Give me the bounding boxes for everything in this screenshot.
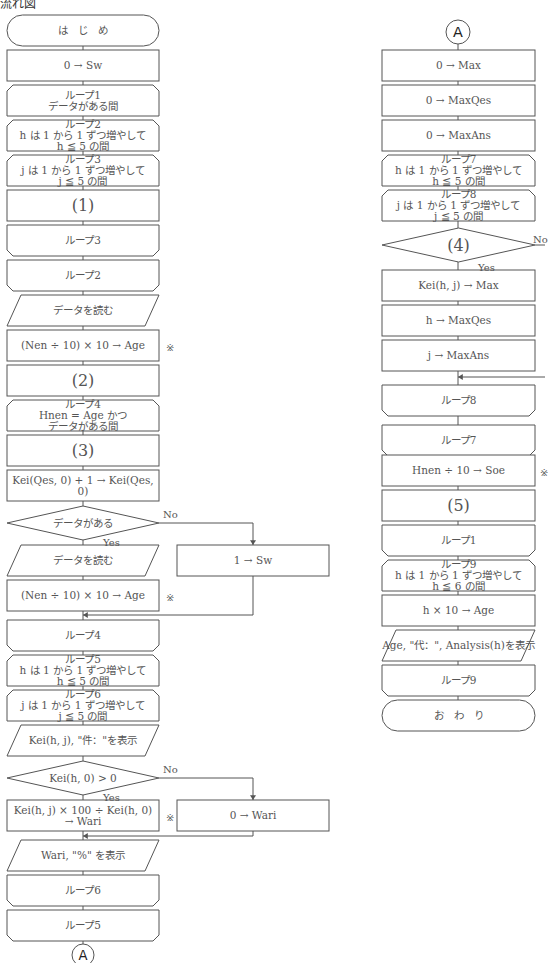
node-text: Kei(h, j) → Max [418, 280, 498, 291]
init-maxans: 0 → MaxAns [382, 120, 535, 151]
node-text: h × 10 → Age [423, 605, 495, 616]
loop5-end: ループ5 [7, 910, 159, 941]
loop7-start: ループ7h は 1 から 1 ずつ増やしてh ≦ 5 の間 [382, 155, 535, 186]
node-text: ループ6 [65, 885, 101, 896]
branch-label: No [163, 509, 178, 520]
loop2-end: ループ2 [7, 260, 159, 291]
cond-kei: Kei(h, 0) > 0 [7, 761, 159, 795]
calc-wari: Kei(h, j) × 100 ÷ Kei(h, 0)→ Wari [7, 800, 159, 831]
node-text: (Nen ÷ 10) × 10 → Age [21, 340, 145, 351]
node-text: 0 → MaxAns [426, 130, 491, 141]
node-text: お わ り [434, 710, 484, 721]
branch-label: Yes [478, 262, 495, 273]
set-sw-1: 1 → Sw [177, 545, 329, 576]
blank-2: (2) [7, 365, 159, 396]
node-text: h ≦ 6 の間 [432, 581, 484, 592]
branch-label: No [163, 764, 178, 775]
node-text: 0 → Sw [64, 60, 102, 71]
end: お わ り [382, 700, 535, 731]
show-kei: Kei(h, j), "件："を表示 [7, 725, 159, 756]
blank-1: (1) [7, 190, 159, 221]
branch-label: Yes [103, 792, 120, 803]
node-text: ループ9 [441, 675, 477, 686]
loop6-start: ループ6j は 1 から 1 ずつ増やしてj ≦ 5 の間 [7, 690, 159, 721]
node-text: ループ4 [65, 630, 101, 641]
calc-soe: Hnen ÷ 10 → Soe [382, 455, 535, 486]
node-text: ループ7 [441, 435, 477, 446]
node-text: (4) [447, 240, 470, 251]
loop5-start: ループ5h は 1 から 1 ずつ増やしてh ≦ 5 の間 [7, 655, 159, 686]
blank-4: (4) [382, 228, 535, 262]
node-text: h ≦ 5 の間 [57, 141, 109, 152]
loop4-start: ループ4Hnen = Age かつデータがある間 [7, 400, 159, 431]
node-text: j ≦ 5 の間 [434, 211, 483, 222]
blank-3: (3) [7, 435, 159, 466]
node-text: (2) [72, 375, 95, 386]
loop3-start: ループ3j は 1 から 1 ずつ増やしてj ≦ 5 の間 [7, 155, 159, 186]
node-text: データを読む [53, 305, 113, 316]
loop1-end: ループ1 [382, 525, 535, 556]
node-text: j → MaxAns [428, 350, 489, 361]
node-text: j ≦ 5 の間 [59, 176, 108, 187]
loop9-end: ループ9 [382, 665, 535, 696]
node-text: Kei(Qes, 0) + 1 → Kei(Qes, 0) [7, 475, 159, 497]
node-text: (Nen ÷ 10) × 10 → Age [21, 590, 145, 601]
node-text: Kei(h, j), "件："を表示 [29, 735, 137, 746]
init-max: 0 → Max [382, 50, 535, 81]
node-text: 0 → Wari [230, 810, 277, 821]
loop8-start: ループ8j は 1 から 1 ずつ増やしてj ≦ 5 の間 [382, 190, 535, 221]
node-text: データがある間 [48, 101, 118, 112]
loop3-end: ループ3 [7, 225, 159, 256]
loop6-end: ループ6 [7, 875, 159, 906]
set-maxans: j → MaxAns [382, 340, 535, 371]
node-text: 0 → MaxQes [426, 95, 491, 106]
calc-age-1: (Nen ÷ 10) × 10 → Age [7, 330, 159, 361]
loop4-end: ループ4 [7, 620, 159, 651]
node-text: h ≦ 5 の間 [57, 676, 109, 687]
init-sw: 0 → Sw [7, 50, 159, 81]
node-text: は じ め [58, 25, 108, 36]
connector-label: A [446, 20, 470, 44]
loop7-end: ループ7 [382, 425, 535, 456]
node-text: 0 → Max [436, 60, 481, 71]
node-text: ループ8 [441, 395, 477, 406]
node-text: → Wari [65, 816, 102, 827]
node-text: j ≦ 5 の間 [59, 711, 108, 722]
calc-age-3: h × 10 → Age [382, 595, 535, 626]
loop2-start: ループ2h は 1 から 1 ずつ増やしてh ≦ 5 の間 [7, 120, 159, 151]
set-wari-0: 0 → Wari [177, 800, 329, 831]
blank-5: (5) [382, 490, 535, 521]
node-text: ループ3 [65, 235, 101, 246]
show-wari: Wari, "%" を表示 [7, 840, 159, 871]
incr-kei: Kei(Qes, 0) + 1 → Kei(Qes, 0) [7, 470, 159, 501]
node-text: Kei(h, j) × 100 ÷ Kei(h, 0) [14, 805, 152, 816]
read-data-2: データを読む [7, 545, 159, 576]
init-maxqes: 0 → MaxQes [382, 85, 535, 116]
node-text: Wari, "%" を表示 [41, 850, 125, 861]
node-text: ループ5 [65, 920, 101, 931]
node-text: (3) [72, 445, 95, 456]
asterisk-note: ※ [540, 467, 548, 478]
node-text: ループ1 [65, 90, 101, 101]
node-text: データがある間 [48, 421, 118, 432]
asterisk-note: ※ [166, 812, 174, 823]
show-analysis: Age, "代：", Analysis(h)を表示 [382, 630, 535, 661]
connector-label: A [72, 944, 94, 963]
asterisk-note: ※ [166, 342, 174, 353]
loop9-start: ループ9h は 1 から 1 ずつ増やしてh ≦ 6 の間 [382, 560, 535, 591]
start: は じ め [7, 15, 159, 46]
node-text: Hnen ÷ 10 → Soe [412, 465, 505, 476]
node-text: h → MaxQes [426, 315, 491, 326]
node-text: h ≦ 5 の間 [432, 176, 484, 187]
loop8-end: ループ8 [382, 385, 535, 416]
set-max: Kei(h, j) → Max [382, 270, 535, 301]
cond-data: データがある [7, 506, 159, 540]
node-text: Age, "代：", Analysis(h)を表示 [382, 640, 535, 651]
node-text: ループ2 [65, 270, 101, 281]
node-text: (1) [72, 200, 95, 211]
set-maxqes: h → MaxQes [382, 305, 535, 336]
loop1-start: ループ1データがある間 [7, 85, 159, 116]
read-data-1: データを読む [7, 295, 159, 326]
node-text: データがある [53, 518, 113, 529]
